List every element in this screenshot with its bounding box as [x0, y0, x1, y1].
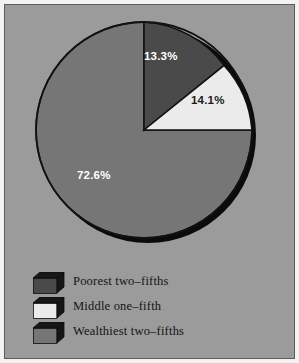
chart-panel: 13.3% 14.1% 72.6% Poorest two–fifths [4, 4, 295, 359]
legend-item-middle[interactable]: Middle one–fifth [27, 295, 277, 320]
legend-item-wealthiest[interactable]: Wealthiest two–fifths [27, 320, 277, 345]
legend: Poorest two–fifths Middle one–fifth We [27, 270, 277, 345]
pie-chart-svg [5, 5, 294, 263]
cube-swatch-icon [33, 272, 65, 294]
cube-swatch-icon [33, 322, 65, 344]
legend-label-wealthiest: Wealthiest two–fifths [73, 324, 184, 339]
cube-swatch-icon [33, 297, 65, 319]
figure-container: 13.3% 14.1% 72.6% Poorest two–fifths [0, 0, 299, 363]
pie-chart: 13.3% 14.1% 72.6% [5, 5, 294, 263]
legend-label-middle: Middle one–fifth [73, 299, 161, 314]
legend-label-poorest: Poorest two–fifths [73, 274, 169, 289]
legend-item-poorest[interactable]: Poorest two–fifths [27, 270, 277, 295]
